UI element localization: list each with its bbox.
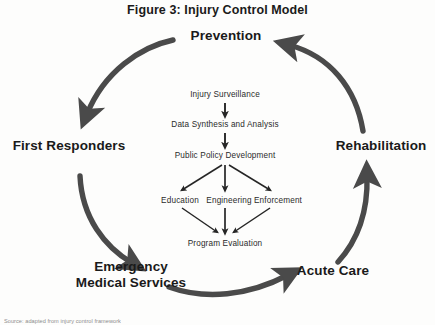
flow-node-public-policy-development: Public Policy Development <box>150 151 300 160</box>
flow-arrow-policy-to-education <box>182 165 222 190</box>
cycle-node-acute-care: Acute Care <box>279 263 387 278</box>
cycle-node-emergency-medical-services: Emergency Medical Services <box>56 259 206 292</box>
source-note: Source: adapted from injury control fram… <box>4 318 121 325</box>
flow-arrow-policy-to-enforcement <box>229 165 270 190</box>
cycle-node-ems-line2: Medical Services <box>56 275 206 291</box>
arc-acute-care-to-rehabilitation <box>338 176 367 262</box>
arc-rehabilitation-to-prevention <box>289 45 363 131</box>
arc-prevention-to-first-responders <box>87 40 173 114</box>
flow-arrow-education-to-program-evaluation <box>182 208 217 232</box>
cycle-node-rehabilitation: Rehabilitation <box>327 138 435 153</box>
cycle-node-first-responders: First Responders <box>1 138 137 153</box>
cycle-node-ems-line1: Emergency <box>56 259 206 275</box>
flow-node-injury-surveillance: Injury Surveillance <box>165 90 285 99</box>
figure-canvas: Figure 3: Injury Control Model <box>0 0 435 325</box>
flow-arrow-enforcement-to-program-evaluation <box>234 208 270 232</box>
flow-node-program-evaluation: Program Evaluation <box>165 239 285 248</box>
flow-node-engineering: Engineering <box>203 196 255 205</box>
cycle-node-prevention: Prevention <box>168 28 284 43</box>
flow-node-enforcement: Enforcement <box>252 196 304 205</box>
arc-first-responders-to-ems <box>80 176 132 263</box>
flow-node-education: Education <box>155 196 205 205</box>
flow-node-data-synthesis-and-analysis: Data Synthesis and Analysis <box>145 120 305 129</box>
